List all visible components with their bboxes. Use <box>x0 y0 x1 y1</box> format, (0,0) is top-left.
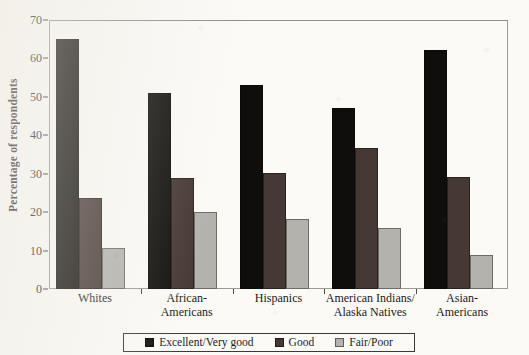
bar <box>332 108 355 289</box>
bar <box>286 219 309 289</box>
bar <box>240 85 263 289</box>
x-category-label: Hispanics <box>233 292 325 306</box>
y-tick-mark-60 <box>43 58 48 59</box>
y-tick-mark-30 <box>43 173 48 174</box>
bar-group <box>56 20 125 289</box>
x-category-label: Whites <box>49 292 141 306</box>
legend-swatch-icon <box>145 338 154 347</box>
x-axis-category-labels: WhitesAfrican- AmericansHispanicsAmerica… <box>49 292 508 322</box>
y-tick-label-70: 70 <box>30 14 42 26</box>
legend-label: Fair/Poor <box>349 337 392 349</box>
legend-item: Excellent/Very good <box>145 337 253 349</box>
y-tick-label-10: 10 <box>30 245 42 257</box>
bar-group <box>332 20 401 289</box>
y-axis-tick-labels: 010203040506070 <box>18 0 48 300</box>
x-category-label: American Indians/ Alaska Natives <box>324 292 416 319</box>
bar-group <box>424 20 493 289</box>
legend-item: Good <box>275 337 315 349</box>
bar <box>470 255 493 289</box>
bar <box>148 93 171 289</box>
x-category-label: Asian- Americans <box>416 292 508 319</box>
legend-swatch-icon <box>275 338 284 347</box>
y-tick-mark-0 <box>43 289 48 290</box>
bar <box>171 178 194 289</box>
bar-group <box>240 20 309 289</box>
legend-label: Excellent/Very good <box>159 337 253 349</box>
bar <box>79 198 102 289</box>
y-tick-mark-40 <box>43 135 48 136</box>
legend-label: Good <box>289 337 315 349</box>
bars-layer <box>49 20 508 289</box>
x-axis-divider-tick <box>233 289 234 294</box>
y-tick-label-60: 60 <box>30 52 42 64</box>
bar-group <box>148 20 217 289</box>
chart-legend: Excellent/Very goodGoodFair/Poor <box>123 333 415 352</box>
bar-chart: Percentage of respondents 01020304050607… <box>0 0 529 355</box>
x-axis-divider-tick <box>141 289 142 294</box>
y-tick-mark-20 <box>43 212 48 213</box>
bar <box>102 248 125 290</box>
y-tick-mark-70 <box>43 20 48 21</box>
y-tick-label-20: 20 <box>30 206 42 218</box>
legend-swatch-icon <box>335 338 344 347</box>
bar <box>194 212 217 289</box>
x-axis-divider-tick <box>416 289 417 294</box>
x-category-label: African- Americans <box>141 292 233 319</box>
bar <box>424 50 447 289</box>
y-tick-label-50: 50 <box>30 91 42 103</box>
y-tick-label-30: 30 <box>30 168 42 180</box>
y-tick-mark-50 <box>43 96 48 97</box>
bar <box>355 148 378 289</box>
bar <box>263 173 286 289</box>
y-tick-mark-10 <box>43 250 48 251</box>
x-axis-divider-tick <box>324 289 325 294</box>
legend-item: Fair/Poor <box>335 337 392 349</box>
bar <box>378 228 401 289</box>
y-tick-label-0: 0 <box>36 283 42 295</box>
bar <box>447 177 470 289</box>
bar <box>56 39 79 289</box>
y-tick-label-40: 40 <box>30 129 42 141</box>
